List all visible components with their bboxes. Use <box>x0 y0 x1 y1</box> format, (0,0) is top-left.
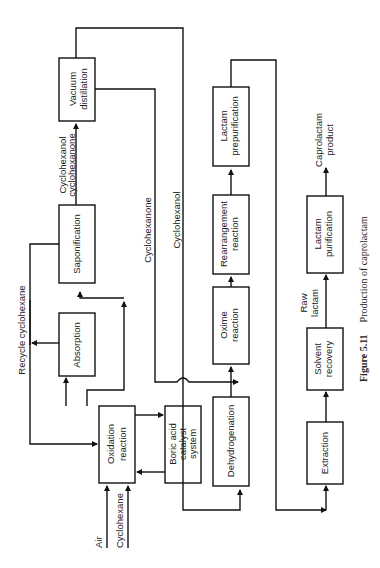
svg-text:Dehydrogenation: Dehydrogenation <box>225 405 236 477</box>
caprolactam-label: Caprolactam <box>313 113 324 167</box>
block-rearrangement-reaction: Rearrangement reaction <box>213 195 249 274</box>
product-label: product <box>324 124 335 156</box>
block-saponification: Saponification <box>59 205 95 283</box>
svg-text:Rearrangement: Rearrangement <box>218 201 229 267</box>
svg-text:recovery: recovery <box>323 341 334 378</box>
block-vacuum-distillation: Vacuum distillation <box>59 58 95 121</box>
air-label: Air <box>93 536 104 548</box>
svg-text:purification: purification <box>323 211 334 257</box>
recycle-label: Recycle cyclohexane <box>16 285 27 374</box>
svg-text:prepurification: prepurification <box>229 96 240 156</box>
svg-text:system: system <box>187 429 198 459</box>
svg-text:Absorption: Absorption <box>71 322 82 367</box>
svg-text:Vacuum: Vacuum <box>67 72 78 106</box>
svg-text:Lactam: Lactam <box>218 110 229 141</box>
svg-text:distillation: distillation <box>78 68 89 110</box>
block-absorption: Absorption <box>59 313 95 376</box>
svg-text:reaction: reaction <box>229 308 240 342</box>
svg-text:Lactam: Lactam <box>312 218 323 249</box>
svg-text:Oxidation: Oxidation <box>105 424 116 464</box>
figure-caption: Figure 5.11 Production of caprolactam <box>353 216 370 382</box>
block-extraction: Extraction <box>307 422 343 484</box>
svg-text:Solvent: Solvent <box>312 343 323 375</box>
process-flow-diagram: Air Cyclohexane Oxidation reaction Boric… <box>0 0 380 568</box>
svg-text:Extraction: Extraction <box>319 432 330 474</box>
svg-text:reaction: reaction <box>117 427 128 461</box>
cyclohexane-label: Cyclohexane <box>114 493 125 548</box>
svg-text:Oxime: Oxime <box>218 311 229 338</box>
cyclohexanone-mix-label: cyclohexanone <box>66 133 77 196</box>
lactam-label: lactam <box>309 289 320 317</box>
block-lactam-prepurification: Lactam prepurification <box>213 87 249 166</box>
cyclohexanone-label: Cyclohexanone <box>142 197 153 263</box>
to-sapon-arrow <box>80 292 124 298</box>
svg-text:Saponification: Saponification <box>71 214 82 274</box>
block-lactam-purification: Lactam purification <box>307 196 343 273</box>
svg-text:reaction: reaction <box>229 217 240 251</box>
block-solvent-recovery: Solvent recovery <box>307 328 343 390</box>
block-dehydrogenation: Dehydrogenation <box>213 397 249 486</box>
block-oxidation-reaction: Oxidation reaction <box>99 406 135 483</box>
cyclohexanol-label: Cyclohexanol <box>171 191 182 248</box>
raw-label: Raw <box>298 293 309 312</box>
block-oxime-reaction: Oxime reaction <box>213 287 249 364</box>
